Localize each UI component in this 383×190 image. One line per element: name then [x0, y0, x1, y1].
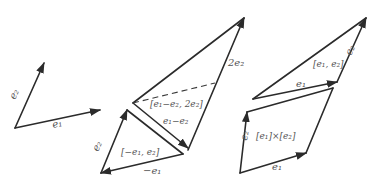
lower-e2-label: e₂	[90, 139, 104, 153]
par-right-line	[306, 88, 333, 153]
par-e1-label: e₁	[272, 161, 282, 172]
basis-e1-label: e₁	[51, 117, 63, 130]
tri-e1-label: e₁	[296, 78, 306, 89]
e2-vector-arrow-icon	[15, 63, 44, 128]
two-e2-arrow-icon	[188, 18, 244, 150]
diff-label: e₁−e₂	[163, 116, 189, 126]
lower-e2-arrow-icon	[101, 110, 127, 173]
two-e2-label: 2e₂	[227, 57, 244, 68]
upper-triangle-label: [e₁−e₂, 2e₂]	[150, 99, 203, 109]
decomposition-figure: [e₁−e₂, 2e₂] e₁−e₂ 2e₂ [−e₁, e₂] e₂ −e₁	[90, 18, 244, 176]
tri-e2-label: e₂	[343, 43, 357, 57]
par-e2-arrow-icon	[240, 112, 247, 173]
product-figure: [e₁, e₂] e₁ e₂ [e₁]×[e₂] e₁ e₂	[238, 18, 366, 173]
product-triangle-label: [e₁, e₂]	[313, 59, 344, 69]
basis-figure: e₂ e₁	[7, 63, 100, 130]
basis-e2-label: e₂	[7, 87, 21, 101]
parallelogram-label: [e₁]×[e₂]	[256, 131, 296, 141]
par-e2-label: e₂	[238, 130, 251, 142]
vector-diagram: e₂ e₁ [e₁−e₂, 2e₂] e₁−e₂ 2e₂ [−e₁, e₂] e…	[0, 0, 383, 190]
lower-triangle-label: [−e₁, e₂]	[121, 147, 160, 157]
neg-e1-label: −e₁	[143, 165, 161, 176]
